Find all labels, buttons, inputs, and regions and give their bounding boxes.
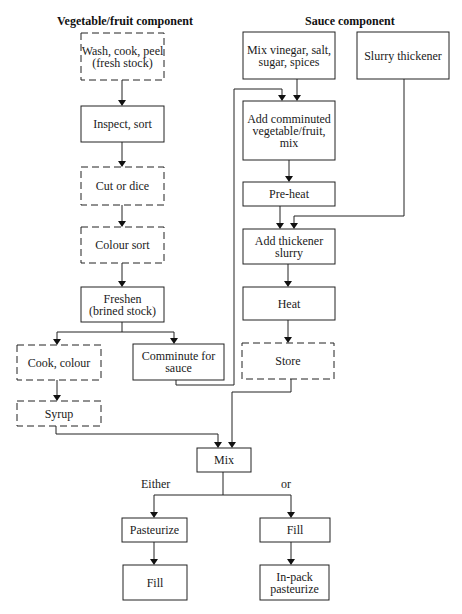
node-comminute: Comminute for sauce	[138, 344, 219, 380]
flowchart-canvas	[0, 0, 462, 614]
node-pasteurize: Pasteurize	[122, 518, 187, 542]
node-cook-colour: Cook, colour	[17, 345, 101, 380]
node-mix: Mix	[197, 448, 251, 472]
node-wash: Wash, cook, peel (fresh stock)	[81, 33, 164, 80]
node-preheat: Pre-heat	[243, 182, 335, 206]
node-slurry: Slurry thickener	[357, 32, 449, 79]
node-fill-left: Fill	[123, 565, 187, 600]
node-freshen: Freshen (brined stock)	[86, 287, 159, 322]
node-mix-vinegar: Mix vinegar, salt, sugar, spices	[245, 32, 333, 79]
node-cut: Cut or dice	[81, 167, 164, 205]
node-inspect: Inspect, sort	[81, 106, 164, 142]
node-add-thickener: Add thickener slurry	[243, 229, 335, 264]
sauce-component-header: Sauce component	[305, 14, 395, 29]
node-store: Store	[242, 343, 334, 379]
branch-label-either: Either	[141, 477, 170, 492]
node-syrup: Syrup	[17, 401, 101, 426]
vegetable-component-header: Vegetable/fruit component	[57, 14, 193, 29]
branch-label-or: or	[281, 477, 291, 492]
node-inpack: In-pack pasteurize	[262, 565, 327, 600]
node-heat: Heat	[243, 287, 335, 320]
node-fill-right: Fill	[260, 518, 330, 542]
node-colour-sort: Colour sort	[81, 227, 164, 263]
node-add-comminuted: Add comminuted vegetable/fruit, mix	[245, 101, 333, 160]
